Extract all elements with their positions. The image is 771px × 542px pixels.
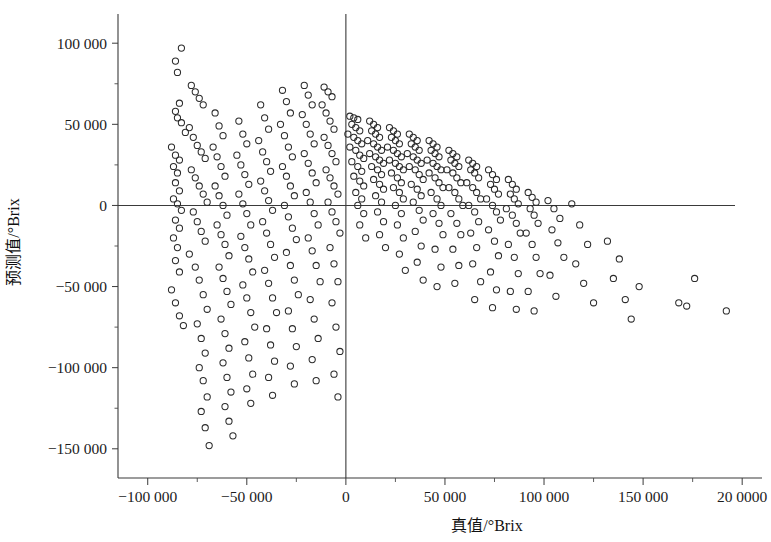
- data-point: [289, 225, 295, 231]
- data-point: [351, 134, 357, 140]
- data-point: [446, 147, 452, 153]
- data-point: [388, 170, 394, 176]
- data-point: [557, 215, 563, 221]
- data-point: [206, 442, 212, 448]
- data-point: [452, 189, 458, 195]
- data-point: [299, 111, 305, 117]
- data-point: [367, 150, 373, 156]
- data-point: [331, 371, 337, 377]
- data-point: [269, 207, 275, 213]
- data-point: [636, 283, 642, 289]
- data-point: [551, 206, 557, 212]
- data-point: [337, 348, 343, 354]
- data-point: [224, 374, 230, 380]
- data-point: [271, 358, 277, 364]
- data-point: [222, 331, 228, 337]
- data-point: [456, 163, 462, 169]
- data-point: [311, 141, 317, 147]
- data-point: [331, 261, 337, 267]
- data-point: [266, 126, 272, 132]
- data-point: [610, 275, 616, 281]
- data-point: [210, 144, 216, 150]
- data-point: [323, 110, 329, 116]
- data-point: [476, 219, 482, 225]
- data-point: [420, 176, 426, 182]
- data-point: [549, 227, 555, 233]
- data-point: [291, 277, 297, 283]
- data-point: [376, 134, 382, 140]
- data-point: [305, 92, 311, 98]
- x-axis-title: 真值/°Brix: [451, 517, 522, 534]
- data-point: [406, 163, 412, 169]
- data-point: [628, 316, 634, 322]
- data-point: [386, 157, 392, 163]
- data-point: [414, 157, 420, 163]
- data-point: [293, 236, 299, 242]
- data-point: [281, 133, 287, 139]
- data-point: [426, 137, 432, 143]
- data-point: [180, 322, 186, 328]
- data-point: [178, 45, 184, 51]
- data-point: [291, 193, 297, 199]
- data-point: [384, 144, 390, 150]
- data-point: [319, 102, 325, 108]
- data-point: [242, 245, 248, 251]
- data-point: [269, 392, 275, 398]
- data-point: [458, 180, 464, 186]
- data-point: [380, 186, 386, 192]
- data-point: [325, 142, 331, 148]
- data-point: [495, 191, 501, 197]
- data-point: [200, 292, 206, 298]
- data-point: [418, 193, 424, 199]
- data-point: [172, 58, 178, 64]
- data-point: [418, 160, 424, 166]
- data-point: [266, 374, 272, 380]
- data-point: [218, 316, 224, 322]
- data-point: [172, 108, 178, 114]
- data-point: [271, 254, 277, 260]
- data-point: [363, 235, 369, 241]
- data-point: [400, 196, 406, 202]
- data-point: [529, 241, 535, 247]
- data-point: [216, 123, 222, 129]
- data-point: [242, 339, 248, 345]
- data-point: [260, 149, 266, 155]
- data-point: [301, 82, 307, 88]
- data-point: [218, 232, 224, 238]
- data-point: [331, 126, 337, 132]
- data-point: [242, 172, 248, 178]
- data-point: [537, 270, 543, 276]
- data-point: [414, 137, 420, 143]
- y-axis-title: 预测值/°Brix: [5, 198, 22, 285]
- data-point: [622, 296, 628, 302]
- data-point: [285, 308, 291, 314]
- data-point: [329, 209, 335, 215]
- data-point: [214, 222, 220, 228]
- data-point: [369, 163, 375, 169]
- data-point: [216, 193, 222, 199]
- data-point: [248, 400, 254, 406]
- data-point: [493, 176, 499, 182]
- x-tick-label: −50 000: [221, 488, 273, 505]
- data-point: [365, 137, 371, 143]
- data-point: [555, 240, 561, 246]
- data-point: [355, 116, 361, 122]
- data-point: [470, 160, 476, 166]
- data-point: [432, 150, 438, 156]
- data-point: [216, 264, 222, 270]
- data-point: [258, 102, 264, 108]
- data-point: [327, 245, 333, 251]
- data-point: [226, 418, 232, 424]
- data-point: [252, 324, 258, 330]
- data-point: [434, 163, 440, 169]
- data-point: [374, 124, 380, 130]
- data-point: [198, 228, 204, 234]
- data-point: [321, 134, 327, 140]
- data-point: [329, 150, 335, 156]
- data-point: [497, 217, 503, 223]
- data-point: [353, 124, 359, 130]
- y-tick-label: 50 000: [64, 116, 107, 133]
- data-point: [178, 120, 184, 126]
- data-point: [228, 301, 234, 307]
- data-point: [428, 147, 434, 153]
